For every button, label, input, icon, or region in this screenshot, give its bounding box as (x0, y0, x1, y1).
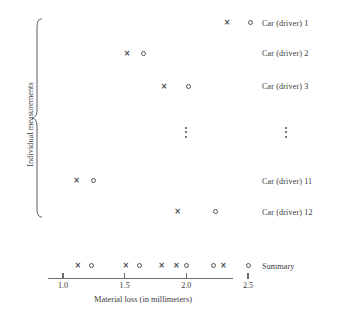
row-2-cross-marker (123, 49, 132, 58)
summary-cross-marker (121, 261, 130, 270)
label-vertical-ellipsis (285, 124, 287, 140)
summary-cross-marker (157, 261, 166, 270)
summary-circle-marker (87, 261, 96, 270)
row-6-circle-marker (211, 207, 220, 216)
row-1-circle-marker (246, 18, 255, 27)
row-3-circle-marker (184, 82, 193, 91)
figure-root: Individual measurements Car (driver) 1Ca… (0, 0, 351, 318)
summary-row-label: Summary (262, 261, 295, 270)
x-axis-tick-label-1.0: 1.0 (58, 281, 68, 290)
row-label-1: Car (driver) 1 (262, 18, 308, 27)
row-5-circle-marker (89, 176, 98, 185)
row-3-cross-marker (160, 82, 169, 91)
x-axis-tick-label-1.5: 1.5 (120, 281, 130, 290)
plot-area: Car (driver) 1Car (driver) 2Car (driver)… (0, 0, 351, 318)
row-label-6: Car (driver) 12 (262, 207, 313, 216)
summary-cross-marker (172, 261, 181, 270)
summary-circle-marker (209, 261, 218, 270)
row-label-3: Car (driver) 3 (262, 82, 308, 91)
summary-cross-marker (219, 261, 228, 270)
x-axis-title: Material loss (in millimeters) (0, 295, 286, 304)
x-axis-tick-label-2.0: 2.0 (181, 281, 191, 290)
row-label-2: Car (driver) 2 (262, 49, 308, 58)
summary-circle-marker (182, 261, 191, 270)
row-label-5: Car (driver) 11 (262, 176, 312, 185)
x-axis-tick-1.5 (124, 273, 125, 279)
summary-cross-marker (73, 261, 82, 270)
row-6-cross-marker (173, 207, 182, 216)
summary-circle-marker (244, 261, 253, 270)
x-axis-tick-2.0 (186, 273, 187, 279)
x-axis-tick-2.5 (247, 273, 248, 279)
row-5-cross-marker (72, 176, 81, 185)
plot-vertical-ellipsis (185, 124, 187, 140)
x-axis-tick-label-2.5: 2.5 (243, 281, 253, 290)
row-2-circle-marker (139, 49, 148, 58)
x-axis-line (48, 278, 233, 279)
row-1-cross-marker (223, 18, 232, 27)
x-axis-tick-1.0 (62, 273, 63, 279)
summary-circle-marker (135, 261, 144, 270)
